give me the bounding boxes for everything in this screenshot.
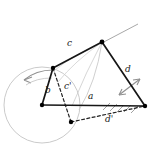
joints bbox=[40, 40, 147, 125]
label-link-d-prime: d' bbox=[105, 115, 113, 124]
linkage-diagram bbox=[0, 0, 152, 159]
joint-alternate bbox=[69, 120, 73, 124]
joint-ground-left bbox=[40, 103, 44, 107]
figure-root: c d b c' a d' bbox=[0, 0, 152, 159]
link-a-ground bbox=[42, 105, 145, 106]
link-c bbox=[53, 42, 102, 68]
link-c-prime bbox=[53, 68, 71, 122]
primary-linkage bbox=[42, 42, 145, 106]
label-link-d: d bbox=[125, 65, 131, 74]
link-d bbox=[102, 42, 145, 106]
label-link-b: b bbox=[45, 86, 51, 95]
joint-coupler-top bbox=[100, 40, 105, 45]
label-link-c-prime: c' bbox=[64, 82, 72, 91]
label-link-a: a bbox=[88, 92, 93, 101]
coupler-arc-middle bbox=[72, 42, 102, 106]
hatch-mark bbox=[131, 106, 138, 113]
joint-crank-top bbox=[51, 66, 55, 70]
label-link-c: c bbox=[67, 39, 72, 48]
joint-ground-right bbox=[143, 104, 147, 108]
extension-ray bbox=[100, 24, 138, 44]
